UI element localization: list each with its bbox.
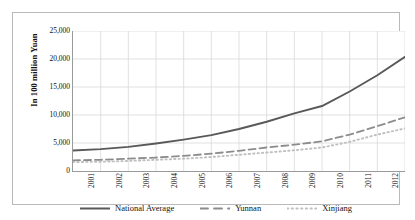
chart-figure: In 100 million Yuan 25,00020,00015,00010… <box>0 0 415 220</box>
legend-label: Xinjiang <box>322 204 352 213</box>
x-tick-label: 2008 <box>281 173 290 203</box>
y-tick-label: 20,000 <box>33 55 70 63</box>
x-tick-label: 2012 <box>391 173 400 203</box>
x-tick-label: 2001 <box>87 173 96 203</box>
y-tick-label: 5,000 <box>33 139 70 147</box>
chart-frame: In 100 million Yuan 25,00020,00015,00010… <box>12 12 400 205</box>
y-tick-label: 10,000 <box>33 111 70 119</box>
legend-swatch-dotted-icon <box>287 204 317 213</box>
plot-lines <box>73 31 405 171</box>
legend-label: National Average <box>115 204 174 213</box>
y-axis-tick-labels: 25,00020,00015,00010,0005,0000 <box>33 31 70 171</box>
legend-item[interactable]: Xinjiang <box>287 204 352 213</box>
legend-item[interactable]: Yunnan <box>200 204 261 213</box>
x-tick-label: 2007 <box>253 173 262 203</box>
plot-area <box>72 31 405 172</box>
x-tick-label: 2002 <box>115 173 124 203</box>
x-tick-label: 2004 <box>170 173 179 203</box>
legend-item[interactable]: National Average <box>80 204 174 213</box>
x-tick-label: 2009 <box>308 173 317 203</box>
x-tick-label: 2011 <box>364 173 373 203</box>
legend-swatch-dashed-icon <box>200 204 230 213</box>
y-tick-label: 0 <box>33 167 70 175</box>
x-tick-label: 2006 <box>225 173 234 203</box>
x-axis-tick-labels: 2001200220032004200520062007200820092010… <box>72 173 404 203</box>
x-tick-label: 2005 <box>198 173 207 203</box>
x-tick-label: 2003 <box>142 173 151 203</box>
legend-label: Yunnan <box>235 204 261 213</box>
y-tick-label: 15,000 <box>33 83 70 91</box>
chart-legend: National AverageYunnanXinjiang <box>41 202 391 215</box>
x-tick-label: 2010 <box>336 173 345 203</box>
y-tick-label: 25,000 <box>33 27 70 35</box>
legend-swatch-solid-icon <box>80 204 110 213</box>
